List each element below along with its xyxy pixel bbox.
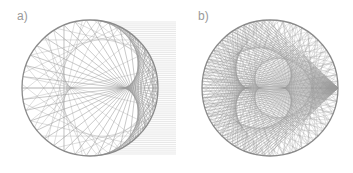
panel-a-nephroid: a)	[0, 0, 180, 173]
panel-b-cardioid: b)	[180, 0, 353, 173]
cardioid-caustic-diagram	[180, 0, 353, 173]
nephroid-caustic-diagram	[0, 0, 180, 173]
